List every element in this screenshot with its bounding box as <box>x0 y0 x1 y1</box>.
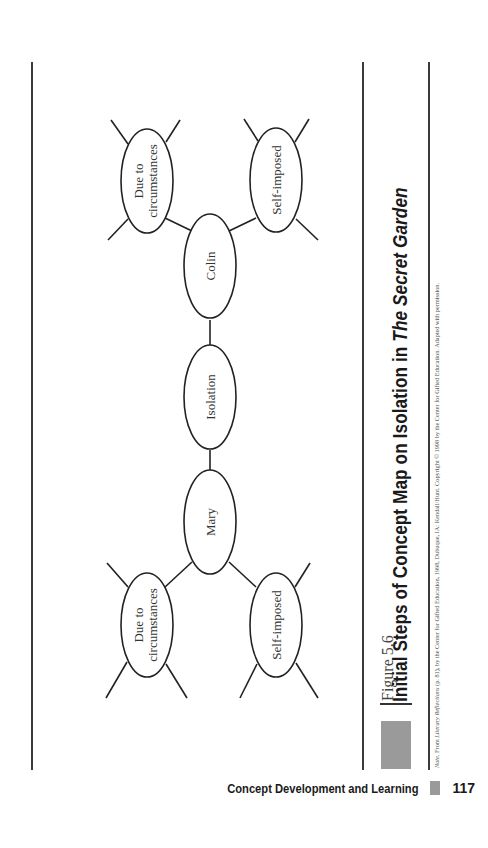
figure-title-main: Initial Steps of Concept Map on Isolatio… <box>389 342 411 702</box>
book-page: Colin Isolation Mary Due to circumstance… <box>0 0 488 848</box>
note-source: Literary Reflections <box>433 688 440 738</box>
label-mary: Mary <box>203 507 218 536</box>
label-mary-due-line2: circumstances <box>145 588 160 662</box>
page-footer: Concept Development and Learning 117 <box>196 777 475 799</box>
note-label: Note. <box>433 755 440 768</box>
label-colin-self-imposed: Self-imposed <box>269 145 284 215</box>
label-colin-due-line2: circumstances <box>145 144 160 218</box>
note-citation: (p. 81), by the Center for Gifted Educat… <box>433 283 440 688</box>
figure-title-book: The Secret Garden <box>389 187 411 341</box>
label-mary-self-imposed: Self-imposed <box>269 590 284 660</box>
label-mary-due-line1: Due to <box>131 607 146 642</box>
running-head: Concept Development and Learning <box>227 781 418 796</box>
figure-label-divider <box>380 703 412 705</box>
concept-map-diagram: Colin Isolation Mary Due to circumstance… <box>0 0 488 848</box>
label-isolation: Isolation <box>203 374 218 420</box>
figure-accent-block <box>381 721 411 769</box>
footer-accent-block <box>430 781 440 795</box>
label-colin-due-line1: Due to <box>131 163 146 198</box>
figure-note: Note. From Literary Reflections (p. 81),… <box>433 283 440 768</box>
label-colin: Colin <box>203 251 218 280</box>
figure-title: Initial Steps of Concept Map on Isolatio… <box>389 187 412 702</box>
page-number: 117 <box>452 780 475 796</box>
